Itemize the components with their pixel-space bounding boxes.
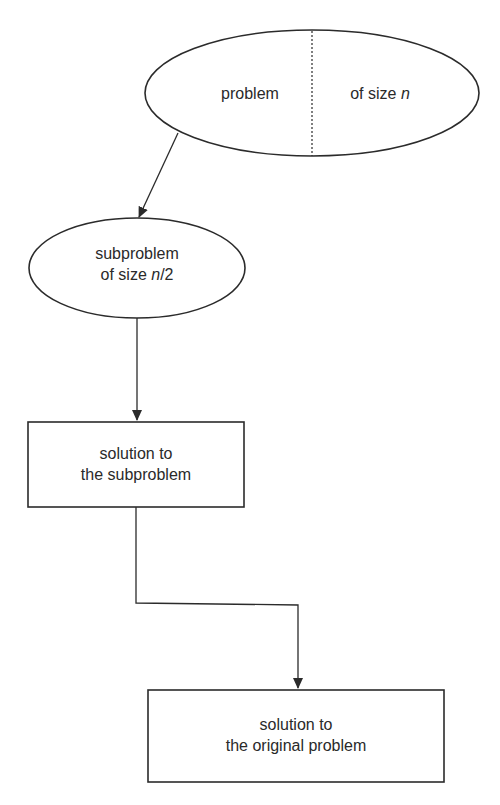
sub-solution-label: solution to the subproblem — [28, 443, 244, 485]
edge-problem-to-subproblem — [139, 133, 178, 217]
size-prefix-text: of size — [350, 85, 401, 102]
problem-text: problem — [221, 85, 279, 102]
diagram-canvas — [0, 0, 500, 805]
subproblem-line2: of size n/2 — [52, 264, 222, 285]
sub-solution-line1: solution to — [28, 443, 244, 464]
orig-solution-line1: solution to — [148, 714, 444, 735]
orig-solution-line2: the original problem — [148, 735, 444, 756]
orig-solution-label: solution to the original problem — [148, 714, 444, 756]
size-var-text: n — [401, 85, 410, 102]
subproblem-label: subproblem of size n/2 — [52, 243, 222, 285]
sub-solution-line2: the subproblem — [28, 464, 244, 485]
subproblem-line1: subproblem — [52, 243, 222, 264]
edge-subsolution-to-original — [136, 507, 298, 688]
problem-label-left: problem — [195, 83, 305, 104]
problem-label-right: of size n — [320, 83, 440, 104]
